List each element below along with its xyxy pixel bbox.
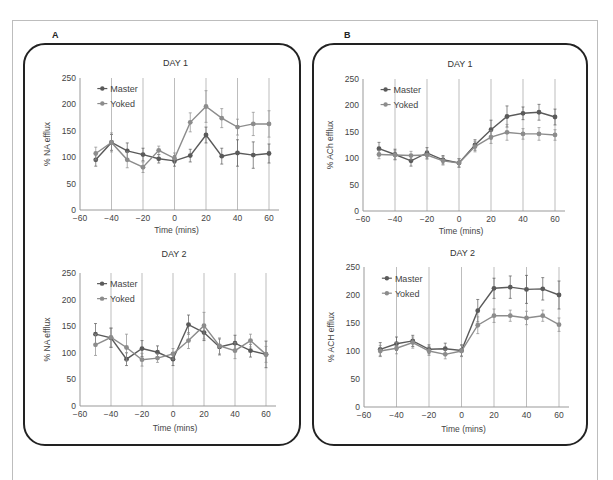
data-point — [524, 316, 529, 321]
data-point — [492, 286, 497, 291]
data-point — [410, 340, 415, 345]
data-point — [524, 287, 529, 292]
legend-swatch-marker — [385, 276, 389, 280]
x-tick-label: −20 — [422, 410, 437, 420]
y-tick-label: 100 — [346, 346, 360, 356]
x-tick-label: −60 — [357, 410, 372, 420]
data-point — [427, 349, 432, 354]
data-point — [540, 286, 545, 291]
x-tick-label: 0 — [459, 410, 464, 420]
y-tick-label: 250 — [346, 262, 360, 272]
legend-label-yoked: Yoked — [395, 289, 420, 299]
series-yoked — [378, 309, 562, 359]
data-point — [475, 323, 480, 328]
data-point — [378, 349, 383, 354]
data-point — [508, 313, 513, 318]
data-point — [443, 352, 448, 357]
y-tick-label: 150 — [346, 318, 360, 328]
series-line — [380, 316, 559, 355]
series-master — [378, 275, 562, 356]
chart-title: DAY 2 — [450, 248, 475, 258]
data-point — [508, 285, 513, 290]
data-point — [557, 293, 562, 298]
y-axis-label: % ACH efflux — [326, 311, 336, 362]
y-tick-label: 200 — [346, 290, 360, 300]
data-point — [492, 313, 497, 318]
x-tick-label: −40 — [389, 410, 404, 420]
x-tick-label: 20 — [489, 410, 499, 420]
data-point — [394, 346, 399, 351]
data-point — [475, 308, 480, 313]
x-axis-label: Time (mins) — [441, 424, 486, 434]
x-tick-label: 60 — [554, 410, 564, 420]
data-point — [557, 322, 562, 327]
data-point — [540, 313, 545, 318]
data-point — [459, 349, 464, 354]
y-tick-label: 50 — [351, 374, 361, 384]
legend-label-master: Master — [395, 274, 423, 284]
legend-swatch-marker — [385, 291, 389, 295]
x-tick-label: 40 — [522, 410, 532, 420]
